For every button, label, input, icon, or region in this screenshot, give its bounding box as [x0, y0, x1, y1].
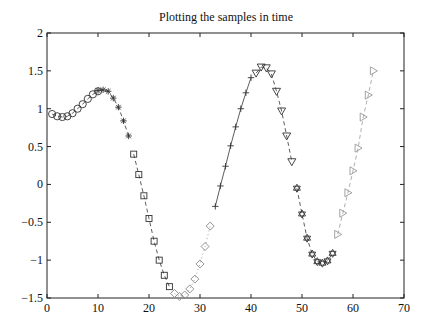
plus-marker-icon	[233, 124, 239, 130]
series-diamond	[171, 222, 215, 300]
plus-marker-icon	[238, 106, 244, 112]
series-hexagram	[293, 184, 336, 267]
x-tick-label: 10	[92, 301, 104, 315]
triangle-down-marker-icon	[252, 70, 260, 77]
star-marker-icon	[100, 87, 106, 93]
triangle-down-marker-icon	[288, 159, 296, 166]
x-tick-label: 20	[143, 301, 155, 315]
triangle-down-marker-icon	[273, 88, 281, 95]
x-tick-label: 60	[347, 301, 359, 315]
diamond-marker-icon	[186, 285, 194, 293]
y-tick-label: −1	[30, 253, 43, 267]
x-tick-label: 30	[194, 301, 206, 315]
y-tick-label: 2	[37, 26, 43, 40]
diamond-marker-icon	[206, 222, 214, 230]
y-tick-label: 0	[37, 177, 43, 191]
plus-marker-icon	[243, 90, 249, 96]
chart-canvas: 010203040506070−1.5−1−0.500.511.52	[0, 0, 429, 333]
plus-marker-icon	[227, 143, 233, 149]
triangle-right-marker-icon	[370, 67, 377, 75]
star-marker-icon	[125, 133, 131, 139]
plus-marker-icon	[212, 203, 218, 209]
diamond-marker-icon	[196, 260, 204, 268]
tick-labels: 010203040506070−1.5−1−0.500.511.52	[21, 26, 410, 315]
y-tick-label: 1.5	[28, 64, 43, 78]
star-marker-icon	[115, 104, 121, 110]
plus-marker-icon	[248, 74, 254, 80]
triangle-right-marker-icon	[350, 167, 357, 175]
square-marker-icon	[166, 284, 172, 290]
series-line	[256, 67, 292, 162]
y-tick-label: 1	[37, 102, 43, 116]
plus-marker-icon	[217, 183, 223, 189]
series-plus	[212, 74, 254, 209]
square-marker-icon	[156, 257, 162, 263]
y-tick-label: −0.5	[21, 215, 43, 229]
star-marker-icon	[120, 118, 126, 124]
x-tick-label: 40	[245, 301, 257, 315]
square-marker-icon	[151, 238, 157, 244]
diamond-marker-icon	[191, 275, 199, 283]
star-marker-icon	[105, 88, 111, 94]
series-square	[131, 151, 173, 290]
star-marker-icon	[110, 95, 116, 101]
series-triangle-down	[252, 64, 296, 166]
series-triangle-right	[335, 67, 378, 239]
series-circle	[49, 88, 102, 121]
plus-marker-icon	[222, 163, 228, 169]
x-tick-label: 0	[44, 301, 50, 315]
star-marker-icon	[95, 87, 101, 93]
series-line	[175, 226, 211, 296]
square-marker-icon	[161, 272, 167, 278]
series-line	[134, 154, 170, 287]
triangle-right-marker-icon	[365, 91, 372, 99]
x-tick-label: 70	[398, 301, 410, 315]
y-tick-label: 0.5	[28, 140, 43, 154]
series-line	[338, 71, 374, 235]
y-tick-label: −1.5	[21, 291, 43, 305]
data-series	[49, 64, 378, 300]
x-tick-label: 50	[296, 301, 308, 315]
